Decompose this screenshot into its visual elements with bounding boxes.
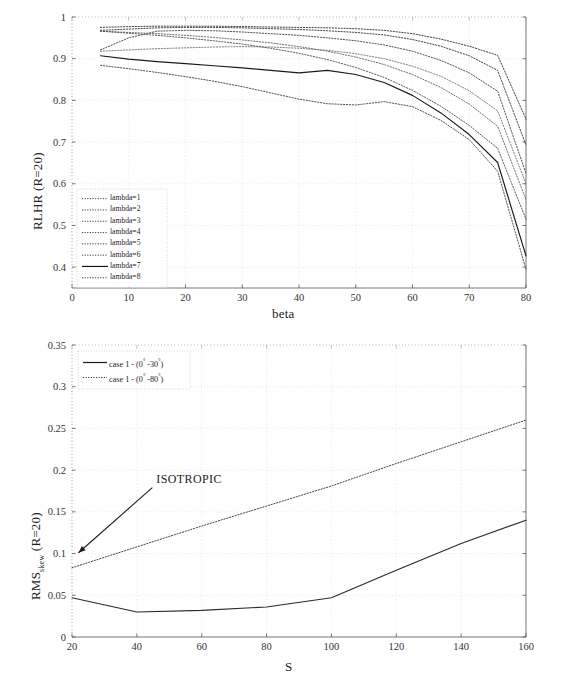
y-axis-label-main: RMS — [28, 572, 43, 600]
legend-item-label: lambda=3 — [110, 215, 164, 226]
y-tick-label: 0.3 — [53, 381, 66, 392]
legend-item-label: lambda=4 — [110, 226, 164, 237]
x-tick-label: 20 — [67, 641, 78, 652]
x-tick-label: 0 — [69, 292, 74, 303]
x-axis-label-top: beta — [272, 306, 294, 322]
legend-item-label: lambda=6 — [110, 249, 164, 260]
legend-item-label: lambda=8 — [110, 271, 164, 282]
y-axis-label-sub: skew — [37, 555, 46, 572]
legend-item-label: case 1 - (0° -80°) — [109, 369, 187, 387]
y-tick-label: 0.2 — [53, 465, 66, 476]
x-tick-label: 160 — [518, 641, 534, 652]
y-tick-label: 0.7 — [53, 137, 66, 148]
x-tick-label: 120 — [388, 641, 404, 652]
x-tick-label: 40 — [294, 292, 305, 303]
y-tick-label: 0.9 — [53, 53, 66, 64]
y-axis-label-bottom: RMSskew (R=20) — [28, 512, 46, 600]
x-tick-label: 60 — [407, 292, 418, 303]
annotation-arrow — [78, 488, 152, 553]
legend-item-label: lambda=5 — [110, 237, 164, 248]
x-tick-label: 80 — [521, 292, 532, 303]
y-tick-label: 0.5 — [53, 220, 66, 231]
legend-item-label: lambda=7 — [110, 260, 164, 271]
y-tick-label: 0.15 — [48, 506, 66, 517]
x-axis-label-bottom: S — [285, 659, 292, 675]
y-tick-label: 0.4 — [53, 262, 67, 273]
legend-item-label: lambda=1 — [110, 192, 164, 203]
y-tick-label: 0.1 — [53, 548, 66, 559]
legend-item-label: lambda=2 — [110, 203, 164, 214]
x-tick-label: 140 — [453, 641, 469, 652]
y-tick-label: 0.05 — [48, 590, 66, 601]
y-tick-label: 0.25 — [48, 423, 66, 434]
annotation-label: ISOTROPIC — [156, 472, 222, 486]
y-tick-label: 0.8 — [53, 95, 66, 106]
x-tick-label: 60 — [196, 641, 207, 652]
series-line — [100, 27, 526, 145]
series-line — [100, 47, 526, 184]
x-tick-label: 10 — [124, 292, 135, 303]
x-tick-label: 30 — [237, 292, 248, 303]
x-tick-label: 20 — [180, 292, 191, 303]
figure-root: 010203040506070800.40.50.60.70.80.91lamb… — [0, 0, 571, 686]
series-line — [72, 420, 526, 568]
y-axis-label-suffix: (R=20) — [28, 512, 43, 554]
series-line — [72, 520, 526, 612]
series-line — [100, 26, 526, 119]
x-tick-label: 70 — [464, 292, 475, 303]
x-tick-label: 50 — [351, 292, 362, 303]
y-tick-label: 0.6 — [53, 178, 66, 189]
y-tick-label: 1 — [61, 12, 66, 23]
y-axis-label-top: RLHR (R=20) — [30, 152, 46, 230]
chart-legend: case 1 - (0° -30°)case 1 - (0° -80°) — [78, 351, 190, 389]
rlhr-plot-svg: 010203040506070800.40.50.60.70.80.91lamb… — [0, 0, 571, 330]
chart-legend: lambda=1lambda=2lambda=3lambda=4lambda=5… — [77, 189, 167, 287]
y-tick-label: 0 — [61, 632, 66, 643]
chart-panel-rlhr: 010203040506070800.40.50.60.70.80.91lamb… — [0, 0, 571, 330]
y-tick-label: 0.35 — [48, 340, 66, 351]
chart-panel-rmsskew: 2040608010012014016000.050.10.150.20.250… — [0, 330, 571, 686]
rmsskew-plot-svg: 2040608010012014016000.050.10.150.20.250… — [0, 330, 571, 686]
x-tick-label: 40 — [132, 641, 143, 652]
x-tick-label: 100 — [324, 641, 340, 652]
x-tick-label: 80 — [261, 641, 272, 652]
